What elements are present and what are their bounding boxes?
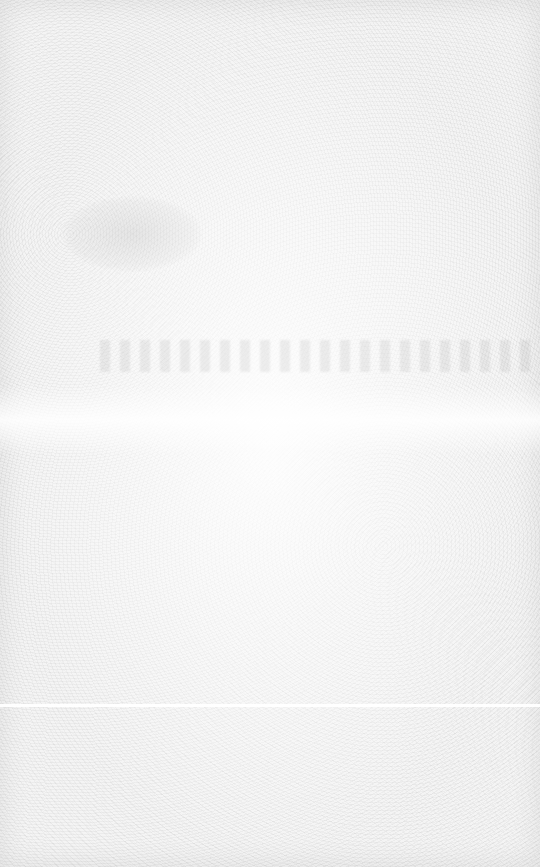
paper-crease bbox=[0, 704, 540, 707]
faded-stamp-smudge bbox=[62, 196, 202, 272]
paper-background bbox=[0, 0, 540, 867]
illegible-text-line bbox=[100, 340, 540, 372]
light-band bbox=[0, 385, 540, 455]
